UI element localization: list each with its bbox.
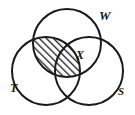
venn-diagram-figure: W T S X <box>0 0 135 115</box>
set-label-t: T <box>10 81 18 95</box>
set-label-s: S <box>118 85 124 97</box>
region-label-x: X <box>75 48 85 62</box>
venn-diagram-canvas: W T S X <box>0 0 135 115</box>
set-label-w: W <box>99 8 112 23</box>
